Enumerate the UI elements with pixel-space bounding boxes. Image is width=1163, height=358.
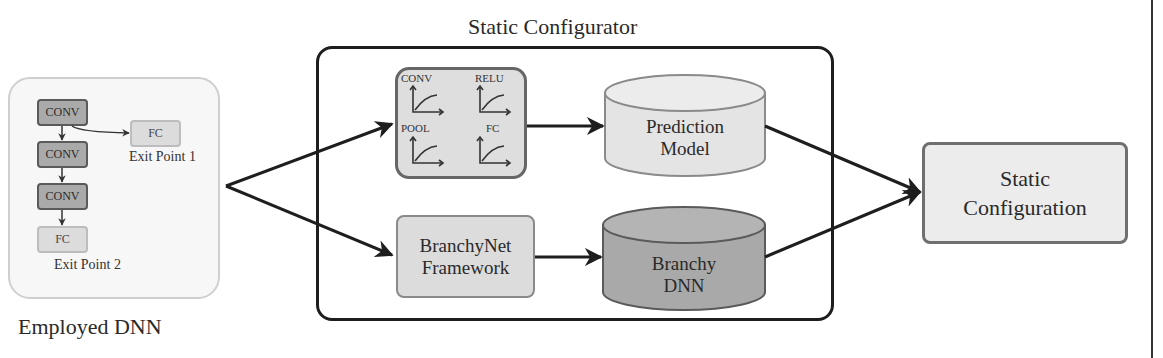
- prediction-model-line2: Model: [605, 138, 765, 160]
- flow-arrows: [226, 124, 920, 257]
- branchy-dnn-label: Branchy DNN: [603, 253, 765, 297]
- prediction-model-label: Prediction Model: [605, 116, 765, 160]
- branchy-dnn-line2: DNN: [603, 275, 765, 297]
- prediction-model-line1: Prediction: [605, 116, 765, 138]
- layer-profile-charts: [410, 86, 510, 166]
- dnn-internal-arrows: [62, 126, 129, 225]
- diagram-graphics: [0, 0, 1163, 358]
- branchy-dnn-line1: Branchy: [603, 253, 765, 275]
